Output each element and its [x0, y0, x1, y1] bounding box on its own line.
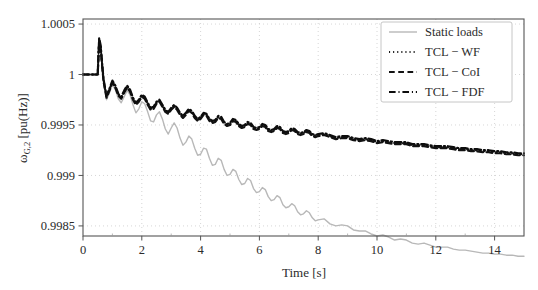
x-tick-label: 6 — [256, 243, 262, 257]
legend-label-0: Static loads — [425, 25, 483, 39]
x-axis-label: Time [s] — [282, 265, 326, 280]
frequency-response-line-chart: 02468101214 1.000510.99950.9990.9985 Tim… — [0, 0, 538, 290]
legend-label-2: TCL − CoI — [425, 65, 480, 79]
x-tick-label: 10 — [371, 243, 384, 257]
y-tick-label: 1.0005 — [41, 17, 75, 31]
x-tick-label: 12 — [430, 243, 443, 257]
legend-label-3: TCL − FDF — [425, 85, 484, 99]
x-tick-label: 0 — [80, 243, 86, 257]
y-tick-label: 0.9985 — [41, 219, 75, 233]
x-tick-label: 8 — [315, 243, 321, 257]
chart-figure: 02468101214 1.000510.99950.9990.9985 Tim… — [0, 0, 538, 290]
legend-label-1: TCL − WF — [425, 45, 480, 59]
y-tick-label: 0.9995 — [41, 118, 75, 132]
chart-legend: Static loadsTCL − WFTCL − CoITCL − FDF — [381, 22, 512, 102]
y-axis-label-unit: [pu(Hz)] — [15, 93, 30, 142]
y-tick-label: 1 — [69, 68, 75, 82]
y-axis-label-subscript: G,2 — [22, 142, 32, 155]
y-tick-label: 0.999 — [47, 169, 75, 183]
x-tick-label: 14 — [488, 243, 501, 257]
x-tick-label: 4 — [197, 243, 204, 257]
x-tick-label: 2 — [139, 243, 145, 257]
